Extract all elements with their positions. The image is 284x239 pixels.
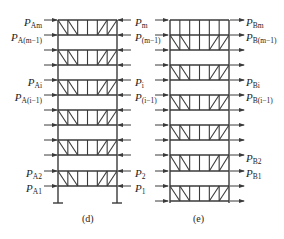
caption-e: (e) bbox=[193, 213, 204, 225]
frame-member bbox=[180, 155, 190, 171]
caption-d: (d) bbox=[82, 213, 94, 225]
frame-member bbox=[68, 80, 78, 95]
frame-member bbox=[107, 171, 117, 186]
frame-member bbox=[209, 65, 219, 80]
load-label-b: PBm bbox=[245, 16, 264, 30]
frame-member bbox=[219, 65, 229, 80]
frame-member bbox=[107, 80, 117, 95]
frame-member bbox=[97, 140, 107, 155]
frame-member bbox=[68, 50, 78, 65]
frame-member bbox=[68, 171, 78, 186]
frame-member bbox=[209, 155, 219, 171]
frame-member bbox=[170, 155, 180, 171]
frame-member bbox=[170, 186, 180, 201]
frame-member bbox=[209, 125, 219, 140]
load-label-p: P2 bbox=[134, 167, 146, 181]
load-labels: PAmPA(m−1)PAiPA(i−1)PA2PA1PmP(m−1)PiP(i−… bbox=[10, 16, 277, 196]
frame-member bbox=[170, 35, 180, 50]
frame-member bbox=[219, 125, 229, 140]
load-label-b: PB(m−1) bbox=[245, 31, 277, 45]
frame-member bbox=[180, 125, 190, 140]
frame-member bbox=[58, 110, 68, 125]
frame-member bbox=[107, 110, 117, 125]
load-label-a: PAi bbox=[27, 76, 42, 90]
load-label-b: PB1 bbox=[245, 167, 262, 181]
frame-member bbox=[58, 50, 68, 65]
load-label-p: Pm bbox=[134, 16, 148, 30]
frame-member bbox=[97, 171, 107, 186]
frame-member bbox=[58, 80, 68, 95]
load-label-a: PA(i−1) bbox=[14, 91, 43, 105]
frame-member bbox=[209, 95, 219, 110]
frame-member bbox=[170, 65, 180, 80]
frame-d bbox=[44, 20, 131, 203]
frame-member bbox=[219, 95, 229, 110]
load-label-p: Pi bbox=[134, 76, 144, 90]
load-label-a: PA2 bbox=[25, 167, 42, 181]
frames-diagram: PAmPA(m−1)PAiPA(i−1)PA2PA1PmP(m−1)PiP(i−… bbox=[0, 0, 284, 239]
load-label-b: PB(i−1) bbox=[245, 91, 273, 105]
frame-member bbox=[219, 155, 229, 171]
frame-member bbox=[97, 20, 107, 35]
frame-member bbox=[58, 171, 68, 186]
load-label-b: PB2 bbox=[245, 152, 262, 166]
frame-member bbox=[209, 35, 219, 50]
structural-frames-figure: PAmPA(m−1)PAiPA(i−1)PA2PA1PmP(m−1)PiP(i−… bbox=[0, 0, 284, 239]
load-label-p: P(i−1) bbox=[134, 91, 157, 105]
frame-member bbox=[170, 125, 180, 140]
frame-e bbox=[155, 20, 244, 203]
frame-member bbox=[68, 110, 78, 125]
load-label-b: PBi bbox=[245, 76, 260, 90]
frame-member bbox=[209, 186, 219, 201]
load-label-a: PA1 bbox=[25, 182, 42, 196]
frame-member bbox=[68, 140, 78, 155]
frame-member bbox=[97, 50, 107, 65]
frame-member bbox=[58, 20, 68, 35]
frame-member bbox=[180, 186, 190, 201]
frame-member bbox=[107, 140, 117, 155]
frame-member bbox=[219, 35, 229, 50]
frame-member bbox=[97, 110, 107, 125]
frame-member bbox=[170, 95, 180, 110]
load-label-a: PAm bbox=[23, 16, 42, 30]
frame-member bbox=[180, 65, 190, 80]
frame-member bbox=[68, 20, 78, 35]
frame-member bbox=[180, 35, 190, 50]
load-label-p: P(m−1) bbox=[134, 31, 161, 45]
frame-member bbox=[219, 186, 229, 201]
frame-member bbox=[97, 80, 107, 95]
frame-member bbox=[107, 50, 117, 65]
frame-member bbox=[58, 140, 68, 155]
frame-member bbox=[107, 20, 117, 35]
frame-member bbox=[180, 95, 190, 110]
load-label-a: PA(m−1) bbox=[10, 31, 42, 45]
load-label-p: P1 bbox=[134, 182, 146, 196]
